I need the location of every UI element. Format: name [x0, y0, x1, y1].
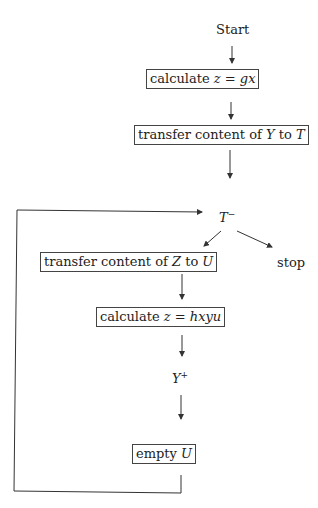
calc-gx-math: z = gx [214, 71, 256, 86]
transfer-zu-mid: to [181, 254, 202, 269]
transfer-yt-var2: T [296, 127, 305, 142]
transfer-yt-var1: Y [266, 127, 275, 142]
y-plus-node: Y+ [172, 366, 188, 388]
stop-label: stop [277, 255, 305, 270]
transfer-y-to-t-box: transfer content of Y to T [134, 125, 309, 145]
t-minus-base: T [219, 210, 228, 225]
transfer-z-to-u-box: transfer content of Z to U [40, 252, 217, 272]
empty-u-prefix: empty [136, 446, 181, 461]
calc-hxyu-prefix: calculate [100, 309, 164, 324]
empty-u-var: U [181, 446, 192, 461]
start-label: Start [216, 22, 249, 37]
y-plus-sup: + [181, 370, 189, 380]
transfer-zu-var1: Z [172, 254, 181, 269]
transfer-zu-var2: U [202, 254, 213, 269]
transfer-zu-prefix: transfer content of [44, 254, 172, 269]
calculate-gx-box: calculate z = gx [146, 69, 259, 89]
transfer-yt-prefix: transfer content of [138, 127, 266, 142]
calc-hxyu-math: z = hxyu [164, 309, 221, 324]
y-plus-base: Y [172, 371, 181, 386]
t-minus-node: T− [219, 205, 235, 227]
calc-gx-prefix: calculate [150, 71, 214, 86]
empty-u-box: empty U [132, 444, 196, 464]
t-minus-sup: − [228, 209, 236, 219]
start-node: Start [216, 21, 249, 39]
stop-node: stop [277, 254, 305, 272]
transfer-yt-mid: to [275, 127, 296, 142]
calculate-hxyu-box: calculate z = hxyu [96, 307, 225, 327]
